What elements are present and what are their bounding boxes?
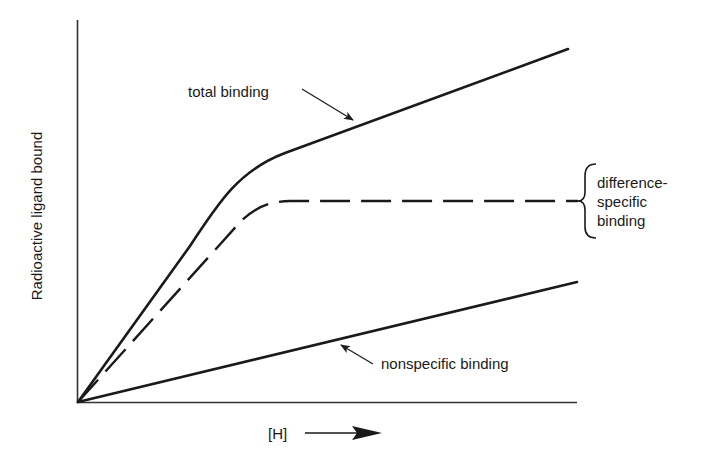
y-axis-label: Radioactive ligand bound: [28, 132, 45, 300]
nonspecific-binding-pointer-arrow-icon: [341, 345, 373, 364]
specific-binding-label-line3: binding: [597, 212, 645, 229]
x-axis-label: [H]: [268, 425, 287, 442]
diagram-svg: Radioactive ligand bound [H] difference-…: [0, 0, 712, 468]
curly-brace-icon: [578, 164, 596, 238]
nonspecific-binding-label: nonspecific binding: [381, 355, 509, 372]
specific-binding-label-line1: difference-: [597, 174, 668, 191]
x-axis-direction-arrow-icon: [305, 426, 382, 440]
total-binding-label: total binding: [188, 83, 269, 100]
nonspecific-binding-line: [78, 282, 577, 402]
binding-diagram: Radioactive ligand bound [H] difference-…: [0, 0, 712, 468]
total-binding-pointer-arrow-icon: [302, 89, 353, 120]
specific-binding-label-line2: specific: [597, 193, 648, 210]
